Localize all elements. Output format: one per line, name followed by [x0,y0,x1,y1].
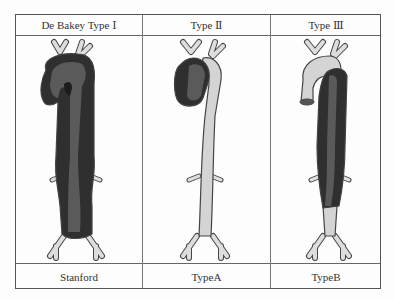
footer-type-a: TypeA [143,267,270,287]
footer-divider [16,263,380,264]
header-type-3: Type Ⅲ [271,15,381,35]
classification-table: De Bakey Type Ⅰ Type Ⅱ Type Ⅲ Stanford T… [15,14,381,289]
header-type-2: Type Ⅱ [143,15,270,35]
header-debakey-type-1: De Bakey Type Ⅰ [16,15,142,35]
footer-stanford: Stanford [16,267,142,287]
aorta-type-1-illustration [16,36,142,262]
aorta-type-3-illustration [271,36,381,262]
footer-type-b: TypeB [271,267,381,287]
aorta-type-2-illustration [143,36,270,262]
